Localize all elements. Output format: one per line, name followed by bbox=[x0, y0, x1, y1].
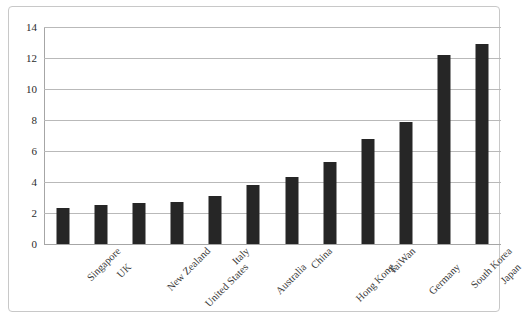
y-axis-tick-label: 2 bbox=[32, 208, 38, 219]
bar[interactable] bbox=[57, 208, 70, 244]
x-axis-category-label: Australia bbox=[275, 262, 310, 297]
bar[interactable] bbox=[209, 196, 222, 244]
y-axis-tick-label: 6 bbox=[32, 146, 38, 157]
x-axis-category-label: United States bbox=[204, 262, 251, 309]
chart-frame: 14121086420 SingaporeUKNew ZealandUnited… bbox=[8, 6, 500, 312]
x-axis-category-label: China bbox=[309, 246, 334, 271]
bar-slot bbox=[158, 27, 196, 244]
bar-slot bbox=[196, 27, 234, 244]
x-axis-labels: SingaporeUKNew ZealandUnited StatesItaly… bbox=[44, 246, 501, 312]
bar[interactable] bbox=[399, 122, 412, 244]
x-axis-category-label: New Zealand bbox=[166, 246, 213, 293]
bar[interactable] bbox=[437, 55, 450, 244]
y-axis-tick-label: 10 bbox=[26, 84, 37, 95]
bar-slot bbox=[273, 27, 311, 244]
y-axis-tick-label: 0 bbox=[32, 239, 38, 250]
bar[interactable] bbox=[361, 139, 374, 244]
plot-area: 14121086420 bbox=[44, 27, 501, 244]
bar-slot bbox=[425, 27, 463, 244]
y-axis-tick-label: 4 bbox=[32, 177, 38, 188]
bar[interactable] bbox=[133, 203, 146, 244]
gridline: 0 bbox=[44, 244, 501, 245]
bar[interactable] bbox=[95, 205, 108, 244]
x-axis-category-label: Singapore bbox=[86, 246, 124, 284]
bar-slot bbox=[44, 27, 82, 244]
y-axis-tick-label: 14 bbox=[26, 22, 37, 33]
bar[interactable] bbox=[285, 177, 298, 244]
x-axis-category-label: UK bbox=[116, 262, 134, 280]
bar-slot bbox=[387, 27, 425, 244]
bar[interactable] bbox=[475, 44, 488, 244]
x-axis-category-label: TaiWan bbox=[387, 246, 417, 276]
y-axis-tick-label: 8 bbox=[32, 115, 38, 126]
bar-slot bbox=[120, 27, 158, 244]
bar-slot bbox=[82, 27, 120, 244]
bar[interactable] bbox=[323, 162, 336, 244]
bars-layer bbox=[44, 27, 501, 244]
bar[interactable] bbox=[247, 185, 260, 244]
y-axis-tick-label: 12 bbox=[26, 53, 37, 64]
bar-slot bbox=[234, 27, 272, 244]
bar[interactable] bbox=[171, 202, 184, 244]
bar-slot bbox=[349, 27, 387, 244]
x-axis-category-label: Germany bbox=[427, 262, 462, 297]
x-axis-category-label: Japan bbox=[499, 262, 523, 286]
bar-slot bbox=[311, 27, 349, 244]
bar-slot bbox=[463, 27, 501, 244]
